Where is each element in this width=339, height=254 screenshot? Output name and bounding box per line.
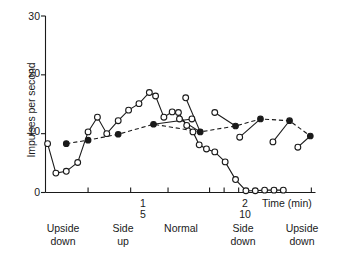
data-point-filled (115, 131, 121, 137)
data-point-filled (197, 129, 203, 135)
data-point-open (53, 170, 59, 176)
data-point-open (233, 177, 239, 183)
series-group (45, 90, 313, 194)
data-point-open (75, 160, 81, 166)
data-point-open (45, 141, 51, 147)
data-point-filled (308, 133, 314, 139)
recovery-connector (273, 121, 290, 142)
data-point-filled (233, 123, 239, 129)
data-point-open (262, 187, 268, 193)
data-point-filled (151, 121, 157, 127)
data-point-open (280, 187, 286, 193)
data-point-open (190, 129, 196, 135)
data-point-open (95, 114, 101, 120)
data-point-filled (63, 141, 69, 147)
data-point-open (169, 109, 175, 115)
data-point-open (177, 116, 183, 122)
data-point-open (212, 110, 218, 116)
data-point-open (243, 188, 249, 194)
data-point-open (204, 146, 210, 152)
data-point-open (115, 118, 121, 124)
data-point-open (104, 131, 110, 137)
data-point-open (136, 101, 142, 107)
data-point-open (176, 110, 182, 116)
data-point-open (222, 159, 228, 165)
data-point-open (196, 142, 202, 148)
axes-group (41, 16, 316, 193)
data-point-open (212, 149, 218, 155)
data-point-open (237, 134, 243, 140)
series-line-open-circle (48, 92, 284, 190)
recovery-connector (240, 119, 261, 137)
data-point-filled (85, 137, 91, 143)
data-point-open (184, 123, 190, 129)
data-point-filled (258, 116, 264, 122)
data-point-open (189, 116, 195, 122)
plot-canvas (0, 0, 339, 254)
data-point-filled (287, 118, 293, 124)
data-point-open (85, 129, 91, 135)
data-point-open (161, 114, 167, 120)
data-point-open (63, 168, 69, 174)
data-point-open (126, 107, 132, 113)
data-point-open (183, 95, 189, 101)
data-point-open (146, 90, 152, 96)
data-point-open (271, 187, 277, 193)
data-point-open (295, 144, 301, 150)
figure-container: Impulses per second 30 20 10 0 1 5 2 10 … (0, 0, 339, 254)
data-point-open (252, 188, 258, 194)
recovery-connector (215, 112, 236, 126)
data-point-open (153, 93, 159, 99)
data-point-open (270, 139, 276, 145)
